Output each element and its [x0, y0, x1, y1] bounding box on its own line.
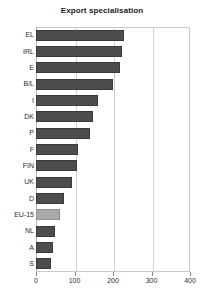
bar-row [36, 242, 190, 253]
x-tick-label-100: 100 [69, 277, 81, 284]
bar-dk[interactable] [36, 111, 93, 122]
bar-row [36, 111, 190, 122]
category-label-dk: DK [0, 113, 34, 120]
bars-layer [36, 27, 190, 272]
bar-row [36, 128, 190, 139]
bar-d[interactable] [36, 193, 64, 204]
x-tick-100 [75, 272, 76, 276]
category-label-b-l: B/L [0, 80, 34, 87]
x-tick-400 [190, 272, 191, 276]
bar-b-l[interactable] [36, 79, 113, 90]
category-label-nl: NL [0, 227, 34, 234]
x-tick-label-200: 200 [107, 277, 119, 284]
x-tick-label-0: 0 [34, 277, 38, 284]
bar-nl[interactable] [36, 226, 55, 237]
bar-fin[interactable] [36, 160, 77, 171]
bar-row [36, 160, 190, 171]
bar-f[interactable] [36, 144, 78, 155]
bar-uk[interactable] [36, 177, 72, 188]
bar-row [36, 209, 190, 220]
x-tick-label-400: 400 [184, 277, 196, 284]
bar-row [36, 95, 190, 106]
bar-p[interactable] [36, 128, 90, 139]
category-label-p: P [0, 129, 34, 136]
chart-title: Export specialisation [0, 6, 204, 15]
bar-row [36, 193, 190, 204]
bar-el[interactable] [36, 30, 124, 41]
bar-row [36, 144, 190, 155]
category-label-a: A [0, 244, 34, 251]
bar-eu-15[interactable] [36, 209, 60, 220]
x-tick-label-300: 300 [146, 277, 158, 284]
bar-row [36, 226, 190, 237]
category-label-e: E [0, 64, 34, 71]
category-label-s: S [0, 260, 34, 267]
category-label-el: EL [0, 31, 34, 38]
bar-irl[interactable] [36, 46, 122, 57]
x-tick-0 [36, 272, 37, 276]
bar-row [36, 62, 190, 73]
bar-row [36, 30, 190, 41]
category-label-fin: FIN [0, 162, 34, 169]
bar-i[interactable] [36, 95, 98, 106]
category-label-f: F [0, 146, 34, 153]
category-label-irl: IRL [0, 48, 34, 55]
category-labels: ELIRLEB/LIDKPFFINUKDEU-15NLAS [0, 27, 34, 272]
x-tick-200 [113, 272, 114, 276]
bar-s[interactable] [36, 258, 51, 269]
export-specialisation-chart: Export specialisation ELIRLEB/LIDKPFFINU… [0, 0, 204, 303]
bar-row [36, 79, 190, 90]
bar-a[interactable] [36, 242, 53, 253]
category-label-i: I [0, 97, 34, 104]
category-label-uk: UK [0, 178, 34, 185]
bar-e[interactable] [36, 62, 120, 73]
bar-row [36, 258, 190, 269]
bar-row [36, 46, 190, 57]
x-tick-300 [152, 272, 153, 276]
bar-row [36, 177, 190, 188]
category-label-eu-15: EU-15 [0, 211, 34, 218]
category-label-d: D [0, 195, 34, 202]
